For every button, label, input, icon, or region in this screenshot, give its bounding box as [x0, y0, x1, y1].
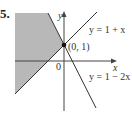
y-axis-label: y	[57, 10, 63, 21]
line2-label: y = 1 − 2x	[89, 71, 130, 82]
shaded-region	[15, 13, 64, 94]
line1-label: y = 1 + x	[89, 24, 125, 35]
point-label: (0, 1)	[68, 41, 90, 53]
origin-label: 0	[56, 61, 61, 72]
intersection-point	[62, 43, 67, 48]
graph: y x 0 (0, 1) y = 1 + x y = 1 − 2x	[0, 0, 132, 115]
